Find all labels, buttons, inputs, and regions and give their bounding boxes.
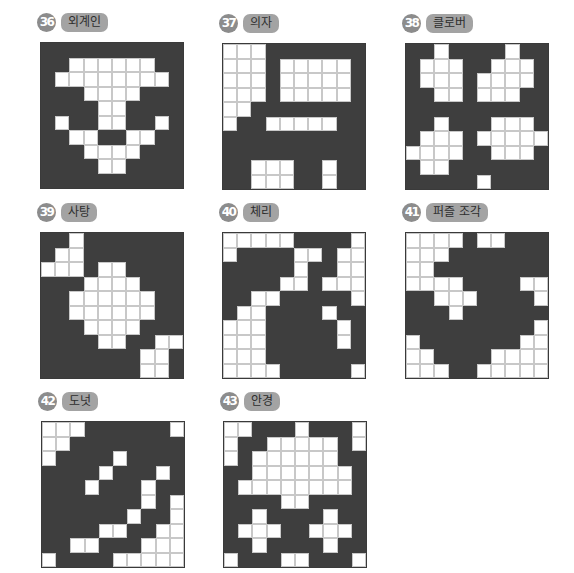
grid-cell <box>505 131 519 146</box>
grid-cell <box>337 146 351 161</box>
grid-cell <box>477 88 491 103</box>
grid-cell <box>155 58 169 73</box>
grid-cell <box>337 335 351 350</box>
grid-cell <box>251 349 265 364</box>
grid-cell <box>69 145 83 160</box>
grid-cell <box>491 335 505 350</box>
grid-cell <box>308 364 322 379</box>
grid-cell <box>98 320 112 335</box>
grid-cell <box>251 364 265 379</box>
grid-cell <box>84 72 98 87</box>
grid-cell <box>56 480 70 495</box>
grid-cell <box>491 364 505 379</box>
grid-cell <box>141 538 155 553</box>
grid-cell <box>534 364 548 379</box>
grid-cell <box>223 175 237 190</box>
grid-cell <box>112 116 126 131</box>
grid-cell <box>322 248 336 263</box>
grid-cell <box>534 306 548 321</box>
grid-cell <box>237 277 251 292</box>
grid-cell <box>266 262 280 277</box>
grid-cell <box>491 44 505 59</box>
puzzle-number-badge: 40 <box>219 203 238 222</box>
grid-cell <box>420 335 434 350</box>
grid-cell <box>41 262 55 277</box>
grid-cell <box>42 437 56 452</box>
grid-cell <box>406 335 420 350</box>
grid-cell <box>434 59 448 74</box>
grid-cell <box>70 538 84 553</box>
grid-cell <box>112 233 126 248</box>
grid-cell <box>434 146 448 161</box>
grid-cell <box>266 320 280 335</box>
grid-cell <box>252 451 266 466</box>
grid-cell <box>505 349 519 364</box>
grid-cell <box>69 174 83 189</box>
grid-cell <box>463 146 477 161</box>
grid-cell <box>322 102 336 117</box>
grid-cell <box>251 44 265 59</box>
grid-cell <box>337 277 351 292</box>
grid-cell <box>267 422 281 437</box>
grid-cell <box>251 277 265 292</box>
grid-cell <box>237 73 251 88</box>
grid-cell <box>237 335 251 350</box>
grid-cell <box>223 146 237 161</box>
grid-cell <box>112 159 126 174</box>
grid-cell <box>309 480 323 495</box>
pixel-grid <box>40 232 184 379</box>
grid-cell <box>351 102 365 117</box>
grid-cell <box>69 43 83 58</box>
grid-cell <box>55 364 69 379</box>
puzzle-title: 퍼즐 조각 <box>426 203 488 222</box>
grid-cell <box>308 175 322 190</box>
grid-cell <box>406 349 420 364</box>
grid-cell <box>491 320 505 335</box>
grid-cell <box>322 44 336 59</box>
grid-cell <box>322 291 336 306</box>
grid-cell <box>337 102 351 117</box>
grid-cell <box>420 233 434 248</box>
grid-cell <box>85 480 99 495</box>
grid-cell <box>337 291 351 306</box>
grid-cell <box>224 466 238 481</box>
grid-cell <box>406 59 420 74</box>
grid-cell <box>140 58 154 73</box>
grid-cell <box>505 102 519 117</box>
grid-cell <box>337 306 351 321</box>
grid-cell <box>98 291 112 306</box>
grid-cell <box>155 130 169 145</box>
grid-cell <box>449 277 463 292</box>
grid-cell <box>55 349 69 364</box>
grid-cell <box>126 58 140 73</box>
grid-cell <box>323 509 337 524</box>
grid-cell <box>42 495 56 510</box>
grid-cell <box>56 466 70 481</box>
grid-cell <box>295 437 309 452</box>
grid-cell <box>406 146 420 161</box>
grid-cell <box>434 160 448 175</box>
grid-cell <box>534 262 548 277</box>
grid-cell <box>169 291 183 306</box>
puzzle-number-badge: 37 <box>219 14 238 33</box>
pixel-grid <box>223 421 367 568</box>
grid-cell <box>126 306 140 321</box>
grid-cell <box>434 335 448 350</box>
grid-cell <box>99 553 113 568</box>
grid-cell <box>98 174 112 189</box>
grid-cell <box>491 262 505 277</box>
grid-cell <box>266 160 280 175</box>
grid-cell <box>449 59 463 74</box>
grid-cell <box>338 553 352 568</box>
grid-cell <box>351 117 365 132</box>
grid-cell <box>434 131 448 146</box>
grid-cell <box>237 320 251 335</box>
grid-cell <box>237 233 251 248</box>
puzzle-title: 클로버 <box>426 14 473 33</box>
grid-cell <box>112 58 126 73</box>
grid-cell <box>126 364 140 379</box>
grid-cell <box>420 291 434 306</box>
grid-cell <box>491 277 505 292</box>
grid-cell <box>280 73 294 88</box>
grid-cell <box>156 553 170 568</box>
